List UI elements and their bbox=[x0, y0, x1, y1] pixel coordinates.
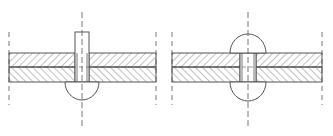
rivet-diagram-svg bbox=[0, 0, 333, 136]
panel-after-setting bbox=[172, 12, 322, 127]
rivet-diagram bbox=[0, 0, 333, 136]
panel-before-setting bbox=[9, 12, 156, 127]
